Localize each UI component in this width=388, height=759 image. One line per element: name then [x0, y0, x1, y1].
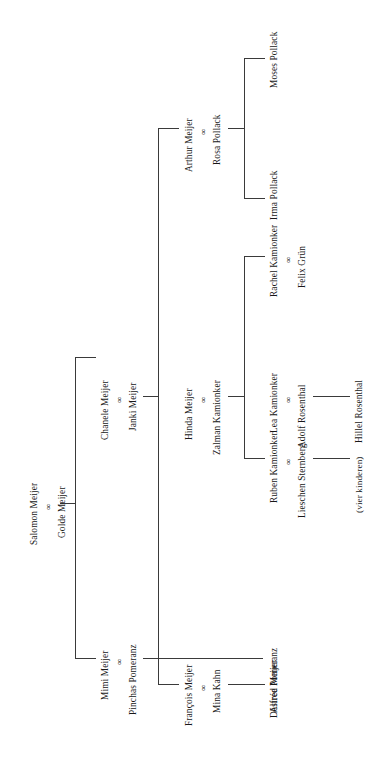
- marriage-symbol-rachel-felix: ∞: [283, 257, 293, 263]
- marriage-symbol-ruben-lieschen: ∞: [283, 459, 293, 465]
- connector-to-moses-pollack: [244, 58, 265, 59]
- connector-arthur-rosa-stub: [228, 128, 245, 129]
- connector-gen1-sibling-bar: [75, 357, 76, 659]
- person-zalman-kamionker: Zalman Kamionker: [212, 380, 222, 455]
- connector-ruben-to-kinderen: [313, 458, 350, 459]
- marriage-symbol-arthur-rosa: ∞: [198, 129, 208, 135]
- marriage-symbol-hinda-zalman: ∞: [198, 397, 208, 403]
- connector-mimi-to-desiree: [143, 658, 263, 659]
- connector-francois-to-alfred: [228, 684, 265, 685]
- person-rachel-kamionker: Rachel Kamionker: [269, 225, 279, 297]
- connector-to-mimi-pinchas: [75, 658, 96, 659]
- person-golde-meijer: Golde Meijer: [57, 486, 67, 538]
- connector-arthur-children-bar: [244, 58, 245, 198]
- marriage-symbol-mimi-pinchas: ∞: [114, 659, 124, 665]
- marriage-symbol-lea-adolf: ∞: [283, 397, 293, 403]
- person-hinda-meijer: Hinda Meijer: [184, 388, 194, 440]
- person-hillel-rosenthal: Hillel Rosenthal: [354, 380, 364, 443]
- connector-hinda-children-bar: [244, 256, 245, 458]
- person-felix-gruen: Felix Grün: [297, 246, 307, 288]
- connector-to-francois-mina: [158, 684, 179, 685]
- person-irma-pollack: Irma Pollack: [269, 170, 279, 220]
- connector-chanele-janki-stub: [143, 396, 159, 397]
- person-pinchas-pomeranz: Pinchas Pomeranz: [128, 644, 138, 715]
- marriage-symbol-chanele-janki: ∞: [114, 397, 124, 403]
- connector-to-irma-pollack: [244, 198, 265, 199]
- person-alfred-meijer: Alfred Meijer: [269, 660, 279, 713]
- connector-hinda-zalman-stub: [228, 396, 245, 397]
- marriage-symbol-francois-mina: ∞: [198, 685, 208, 691]
- connector-lea-to-hillel: [313, 396, 350, 397]
- person-moses-pollack: Moses Pollack: [269, 32, 279, 88]
- person-janki-meijer: Janki Meijer: [128, 382, 138, 431]
- connector-to-rachel-felix: [244, 256, 265, 257]
- person-lea-kamionker: Lea Kamionker: [269, 373, 279, 433]
- person-salomon-meijer: Salomon Meijer: [29, 483, 39, 545]
- connector-janki-children-bar: [158, 128, 159, 684]
- marriage-symbol-salomon-golde: ∞: [43, 504, 53, 510]
- person-francois-meijer: François Meijer: [184, 665, 194, 726]
- person-adolf-rosenthal: Adolf Rosenthal: [297, 385, 307, 448]
- note-vier-kinderen: (vier kinderen): [354, 456, 364, 513]
- family-tree-diagram: Salomon Meijer ∞ Golde Meijer Chanele Me…: [0, 0, 388, 759]
- person-lieschen-sternberg: Lieschen Sternberg: [297, 443, 307, 518]
- connector-to-ruben-lieschen: [244, 458, 265, 459]
- connector-to-arthur-rosa: [158, 128, 179, 129]
- person-chanele-meijer: Chanele Meijer: [100, 380, 110, 440]
- person-mina-kahn: Mina Kahn: [212, 670, 222, 713]
- person-arthur-meijer: Arthur Meijer: [184, 118, 194, 172]
- connector-to-chanele-janki: [75, 357, 96, 358]
- person-mimi-meijer: Mimi Meijer: [100, 651, 110, 700]
- person-ruben-kamionker: Ruben Kamionker: [269, 432, 279, 503]
- person-rosa-pollack: Rosa Pollack: [212, 114, 222, 165]
